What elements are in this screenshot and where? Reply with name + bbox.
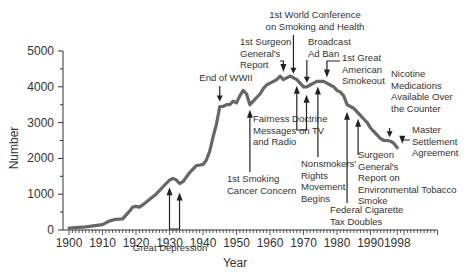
arrow-head-icon <box>280 64 286 72</box>
arrow-head-icon <box>177 192 183 200</box>
arrow-shaft <box>327 61 340 74</box>
y-tick-label: 4000 <box>27 80 54 94</box>
arrow-head-icon <box>217 95 223 101</box>
y-tick-label: 3000 <box>27 116 54 130</box>
arrow-head-icon <box>344 112 350 120</box>
x-tick-label: 1960 <box>257 236 284 250</box>
annotation-label: 1st GreatAmericanSmokeout <box>342 52 385 86</box>
annotation-label: Federal CigaretteTax Doubles <box>330 204 403 227</box>
annotation-label: Great Depression <box>133 242 207 253</box>
annotation-label: 1st SmokingCancer Concern <box>227 173 296 196</box>
y-tick-label: 0 <box>47 223 54 237</box>
line-chart: 010002000300040005000 190019101920193019… <box>0 0 466 272</box>
arrow-head-icon <box>387 131 393 137</box>
arrow-head-icon <box>304 95 310 103</box>
annotation-label: MasterSettlementAgreement <box>412 124 459 158</box>
arrow-head-icon <box>167 187 173 195</box>
arrow-head-icon <box>324 69 330 77</box>
bracket-line <box>170 190 180 229</box>
arrow-head-icon <box>304 77 310 83</box>
y-axis: 010002000300040005000 <box>27 44 63 237</box>
arrow-head-icon <box>294 86 300 94</box>
annotation-label: Fairness DoctrineMessages on TVand Radio <box>253 113 327 147</box>
x-tick-label: 1900 <box>56 236 83 250</box>
annotation-label: Nonsmokers'RightsMovementBegins <box>301 158 356 204</box>
x-tick-label: 1980 <box>324 236 351 250</box>
x-tick-label: 1970 <box>290 236 317 250</box>
y-tick-label: 1000 <box>27 187 54 201</box>
annotation-label: 1st World Conferenceon Smoking and Healt… <box>266 9 365 32</box>
x-tick-label: 1950 <box>223 236 250 250</box>
y-tick-label: 2000 <box>27 151 54 165</box>
arrow-head-icon <box>247 110 253 118</box>
y-axis-label: Number <box>7 127 21 170</box>
x-tick-label: 1998 <box>384 236 411 250</box>
x-axis: 1900191019201930194019501960197019801990… <box>56 230 438 250</box>
arrow-head-icon <box>355 119 361 127</box>
annotations: Great DepressionEnd of WWII1st SmokingCa… <box>133 9 459 253</box>
x-axis-label: Year <box>223 256 247 270</box>
x-tick-label: 1990 <box>357 236 384 250</box>
annotation-label: End of WWII <box>199 72 252 83</box>
arrow-head-icon <box>290 68 296 74</box>
annotation-label: NicotineMedicationsAvailable Overthe Cou… <box>391 68 453 114</box>
y-tick-label: 5000 <box>27 44 54 58</box>
arrow-head-icon <box>315 86 321 94</box>
x-tick-label: 1910 <box>89 236 116 250</box>
